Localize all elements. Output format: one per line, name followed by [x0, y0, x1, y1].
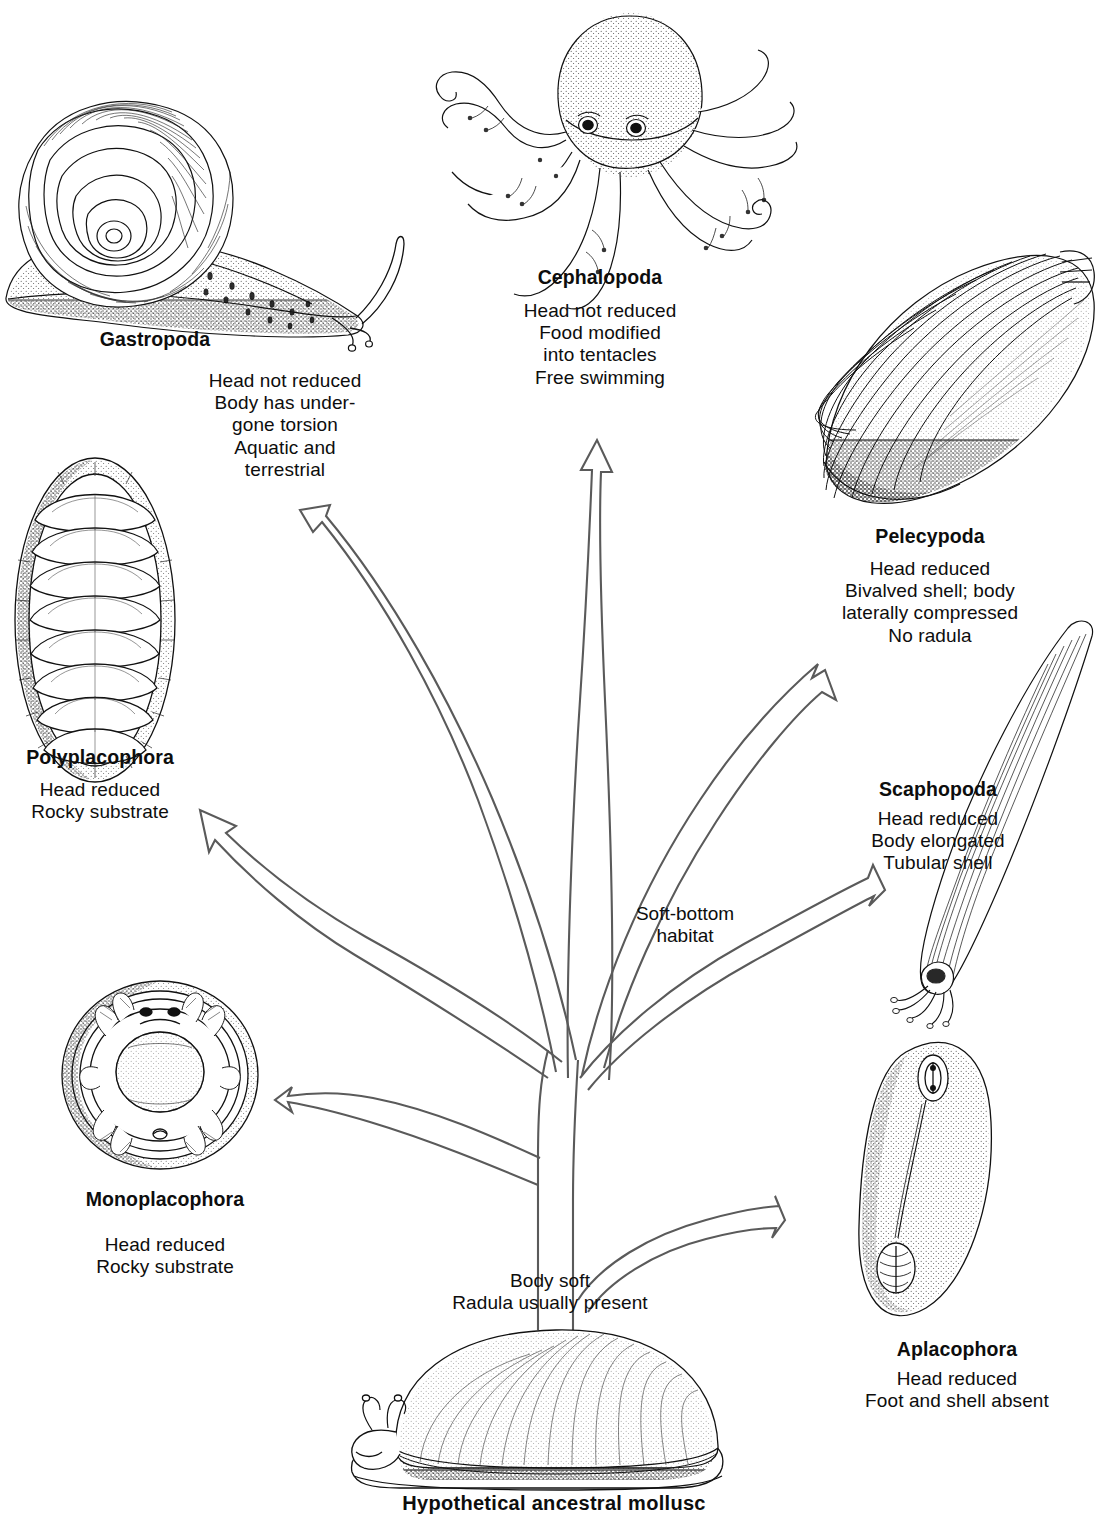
annotation-ancestral-traits: Body soft Radula usually present	[400, 1270, 700, 1314]
label-scaphopoda: Scaphopoda	[828, 778, 1048, 801]
trait-line: laterally compressed	[790, 602, 1070, 624]
figure-title: Hypothetical ancestral mollusc	[304, 1492, 804, 1515]
snail-drawing	[0, 102, 404, 352]
root-trait-line: Body soft	[400, 1270, 700, 1292]
label-monoplacophora: Monoplacophora	[40, 1188, 290, 1211]
trait-line: Food modified	[480, 322, 720, 344]
trait-line: Aquatic and	[160, 437, 410, 459]
trait-line: Head reduced	[40, 1234, 290, 1256]
trait-line: Head reduced	[790, 558, 1070, 580]
chiton-drawing	[10, 450, 190, 795]
habitat-line: Soft-bottom	[600, 903, 770, 925]
root-trait-line: Radula usually present	[400, 1292, 700, 1314]
trait-line: Head reduced	[812, 1368, 1102, 1390]
traits-cephalopoda: Head not reduced Food modified into tent…	[480, 300, 720, 389]
trait-line: into tentacles	[480, 344, 720, 366]
traits-scaphopoda: Head reduced Body elongated Tubular shel…	[828, 808, 1048, 875]
annotation-soft-bottom-habitat: Soft-bottom habitat	[600, 903, 770, 947]
traits-pelecypoda: Head reduced Bivalved shell; body latera…	[790, 558, 1070, 647]
traits-monoplacophora: Head reduced Rocky substrate	[40, 1234, 290, 1278]
trait-line: Foot and shell absent	[812, 1390, 1102, 1412]
clam-drawing	[810, 240, 1107, 530]
solenogaster-drawing	[845, 1020, 1010, 1330]
trait-line: No radula	[790, 625, 1070, 647]
traits-aplacophora: Head reduced Foot and shell absent	[812, 1368, 1102, 1412]
label-polyplacophora: Polyplacophora	[0, 746, 200, 769]
molluscan-phylogeny-figure: Gastropoda Head not reduced Body has und…	[0, 0, 1107, 1529]
trait-line: terrestrial	[160, 459, 410, 481]
ancestral-mollusc-drawing	[340, 1320, 740, 1500]
trait-line: Head not reduced	[480, 300, 720, 322]
label-pelecypoda: Pelecypoda	[790, 525, 1070, 548]
label-cephalopoda: Cephalopoda	[480, 266, 720, 289]
trait-line: Body has under-	[160, 392, 410, 414]
trait-line: Rocky substrate	[0, 801, 200, 823]
trait-line: Head not reduced	[160, 370, 410, 392]
trait-line: Head reduced	[0, 779, 200, 801]
label-gastropoda: Gastropoda	[0, 328, 310, 351]
label-aplacophora: Aplacophora	[812, 1338, 1102, 1361]
traits-gastropoda: Head not reduced Body has under- gone to…	[160, 370, 410, 481]
trait-line: Bivalved shell; body	[790, 580, 1070, 602]
neopilina-drawing	[55, 975, 270, 1180]
trait-line: Rocky substrate	[40, 1256, 290, 1278]
trait-line: gone torsion	[160, 414, 410, 436]
trait-line: Head reduced	[828, 808, 1048, 830]
trait-line: Tubular shell	[828, 852, 1048, 874]
habitat-line: habitat	[600, 925, 770, 947]
octopus-drawing	[436, 8, 796, 309]
traits-polyplacophora: Head reduced Rocky substrate	[0, 779, 200, 823]
trait-line: Free swimming	[480, 367, 720, 389]
trait-line: Body elongated	[828, 830, 1048, 852]
